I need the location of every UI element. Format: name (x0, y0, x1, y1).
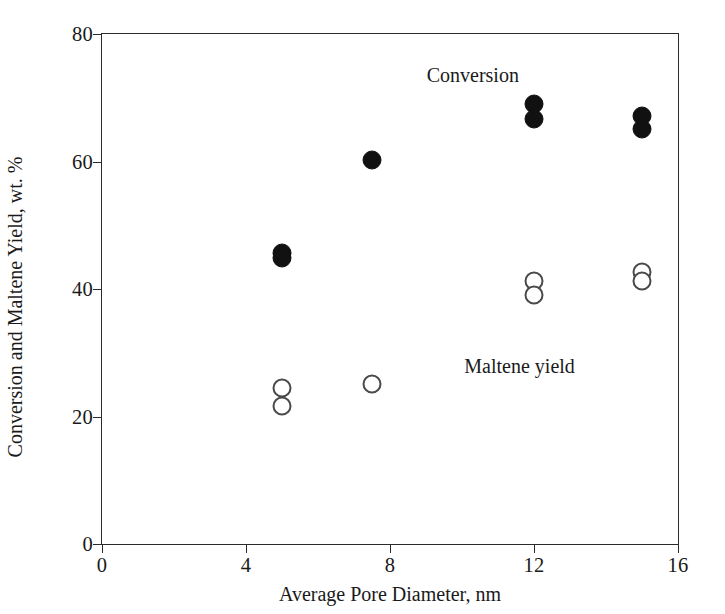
y-axis-tick (93, 417, 102, 418)
x-axis-tick-label: 4 (241, 555, 252, 576)
x-axis-label: Average Pore Diameter, nm (101, 584, 679, 604)
series-annotation: Conversion (427, 65, 519, 85)
data-point-maltene-yield (633, 271, 652, 290)
y-axis-label: Conversion and Maltene Yield, wt. % (0, 0, 30, 614)
y-axis-tick-label: 80 (72, 24, 93, 45)
data-point-conversion (273, 249, 292, 268)
scatter-chart-figure: 0204060800481216ConversionMaltene yield … (0, 0, 725, 614)
plot-area: 0204060800481216ConversionMaltene yield (101, 33, 679, 545)
x-axis-tick-label: 16 (667, 555, 688, 576)
x-axis-tick-label: 0 (97, 555, 108, 576)
data-point-conversion (525, 110, 544, 129)
data-point-maltene-yield (273, 378, 292, 397)
x-axis-tick-label: 12 (523, 555, 544, 576)
data-point-maltene-yield (273, 397, 292, 416)
x-axis-tick (102, 544, 103, 553)
data-point-maltene-yield (525, 286, 544, 305)
y-axis-tick (93, 289, 102, 290)
x-axis-tick (246, 544, 247, 553)
y-axis-tick-label: 40 (72, 279, 93, 300)
y-axis-tick (93, 34, 102, 35)
y-axis-tick (93, 162, 102, 163)
x-axis-tick (534, 544, 535, 553)
data-point-maltene-yield (363, 374, 382, 393)
data-point-conversion (363, 150, 382, 169)
data-point-conversion (633, 119, 652, 138)
x-axis-tick (678, 544, 679, 553)
x-axis-tick (390, 544, 391, 553)
x-axis-tick-label: 8 (385, 555, 396, 576)
y-axis-tick-label: 0 (82, 534, 93, 555)
y-axis-tick-label: 20 (72, 406, 93, 427)
y-axis-tick (93, 544, 102, 545)
y-axis-tick-label: 60 (72, 151, 93, 172)
series-annotation: Maltene yield (464, 356, 575, 376)
